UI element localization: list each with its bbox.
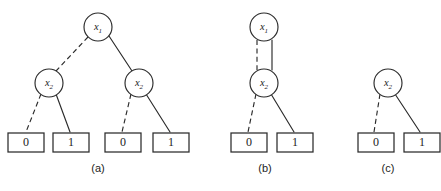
c-root-node[interactable]: x2	[374, 69, 402, 97]
a-leaf-1b-label: 1	[168, 135, 174, 149]
c-leaf-0-terminal[interactable]: 0	[358, 133, 394, 152]
panel-a: x1x2x20101(a)	[8, 13, 189, 174]
panel-c-caption: (c)	[382, 162, 395, 174]
c-leaf-1-terminal[interactable]: 1	[404, 133, 440, 152]
panel-b: x1x201(b)	[231, 13, 313, 174]
a-leaf-0a-label: 0	[23, 135, 29, 149]
b-leaf-1-terminal[interactable]: 1	[277, 133, 313, 152]
decision-diagram-figure: x1x2x20101(a)x1x201(b)x201(c)	[0, 0, 441, 191]
a-leaf-0a-terminal[interactable]: 0	[8, 133, 44, 152]
a-edge-right-high-solid-edge	[146, 94, 170, 132]
b-root-node[interactable]: x1	[250, 13, 278, 41]
panel-a-caption: (a)	[91, 162, 104, 174]
c-leaf-0-label: 0	[373, 135, 379, 149]
a-leaf-1a-label: 1	[68, 135, 74, 149]
b-edge-mid-high-solid-edge	[271, 94, 294, 132]
b-leaf-1-label: 1	[292, 135, 298, 149]
c-edge-low-dashed-edge	[374, 94, 380, 132]
a-leaf-1a-terminal[interactable]: 1	[53, 133, 89, 152]
b-leaf-0-label: 0	[246, 135, 252, 149]
a-right-node[interactable]: x2	[125, 69, 153, 97]
c-leaf-1-label: 1	[419, 135, 425, 149]
a-edge-root-high-solid-edge	[109, 36, 132, 71]
a-leaf-1b-terminal[interactable]: 1	[153, 133, 189, 152]
b-mid-node[interactable]: x2	[250, 69, 278, 97]
a-leaf-0b-terminal[interactable]: 0	[105, 133, 141, 152]
b-edge-mid-low-dashed-edge	[248, 94, 256, 132]
a-leaf-0b-label: 0	[120, 135, 126, 149]
figure-root: x1x2x20101(a)x1x201(b)x201(c)	[0, 0, 441, 191]
panel-c: x201(c)	[358, 69, 440, 174]
a-edge-root-low-dashed-edge	[56, 37, 88, 71]
c-edge-high-solid-edge	[395, 94, 420, 132]
a-root-node[interactable]: x1	[84, 13, 112, 41]
a-edge-right-low-dashed-edge	[122, 94, 131, 132]
panels-group: x1x2x20101(a)x1x201(b)x201(c)	[8, 13, 440, 174]
a-edge-left-low-dashed-edge	[26, 94, 41, 132]
a-edge-left-high-solid-edge	[56, 94, 70, 132]
b-leaf-0-terminal[interactable]: 0	[231, 133, 267, 152]
a-left-node[interactable]: x2	[35, 69, 63, 97]
panel-b-caption: (b)	[258, 162, 271, 174]
